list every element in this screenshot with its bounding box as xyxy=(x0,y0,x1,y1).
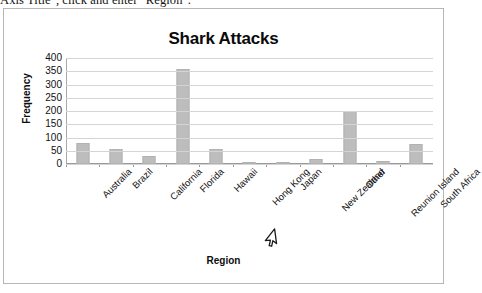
y-axis-tick-label: 250 xyxy=(45,93,62,103)
y-axis-tick-label: 300 xyxy=(45,80,62,90)
plot-area xyxy=(66,58,433,164)
instruction-text-line: Axis Title", click and enter "Region". xyxy=(0,0,450,7)
chart-title[interactable]: Shark Attacks xyxy=(4,29,443,49)
y-axis-tick-label: 0 xyxy=(56,159,62,169)
y-axis-tick-label: 400 xyxy=(45,53,62,63)
y-axis-tick-label: 100 xyxy=(45,133,62,143)
gridline xyxy=(66,85,433,86)
y-axis-tick-labels: 400350300250200150100500 xyxy=(28,51,62,171)
x-axis-tick-label: Australia xyxy=(100,166,134,200)
gridline xyxy=(66,98,433,99)
gridline xyxy=(66,151,433,152)
x-axis-tick-label: Hawaii xyxy=(231,166,259,194)
x-axis-tick-label: Brazil xyxy=(130,166,155,191)
mouse-pointer-arrow-icon xyxy=(262,228,284,250)
gridline xyxy=(66,58,433,59)
gridline xyxy=(66,111,433,112)
x-axis-tick-labels: AustraliaBrazilCaliforniaFloridaHawaiiHo… xyxy=(66,166,433,228)
gridline xyxy=(66,71,433,72)
bar[interactable] xyxy=(410,144,423,164)
y-axis-tick-label: 150 xyxy=(45,119,62,129)
bar[interactable] xyxy=(76,143,89,164)
y-axis-tick-label: 50 xyxy=(51,146,62,156)
instruction-text: Axis Title", click and enter "Region". xyxy=(0,0,450,7)
x-axis-tick-label: Florida xyxy=(198,166,226,194)
gridline xyxy=(66,124,433,125)
bar[interactable] xyxy=(143,156,156,164)
bar[interactable] xyxy=(176,69,189,164)
y-axis-tick-label: 350 xyxy=(45,66,62,76)
gridline xyxy=(66,138,433,139)
x-axis-title[interactable]: Region xyxy=(4,255,443,266)
y-axis-tick-label: 200 xyxy=(45,106,62,116)
gridline xyxy=(66,164,433,165)
x-axis-tick-label: Other xyxy=(363,166,388,191)
chart-container[interactable]: Shark Attacks Frequency 4003503002502001… xyxy=(3,8,444,284)
